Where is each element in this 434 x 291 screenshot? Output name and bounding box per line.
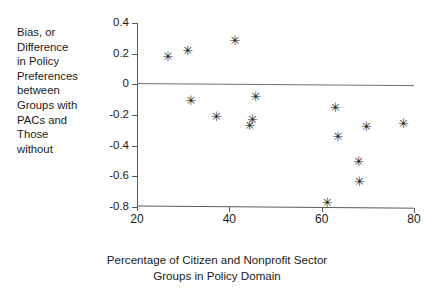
data-point-marker: ✳	[322, 198, 331, 207]
y-tick-label: 0.2	[113, 48, 129, 60]
data-point-marker: ✳	[186, 96, 195, 105]
scatter-plot-figure: Bias, or Difference in Policy Preference…	[0, 0, 434, 291]
y-tick-mark	[132, 146, 137, 147]
data-point-marker: ✳	[250, 92, 259, 101]
y-tick-mark	[132, 115, 137, 116]
y-tick-mark	[132, 176, 137, 177]
y-tick-label: -0.8	[109, 201, 129, 213]
zero-reference-line	[137, 81, 415, 89]
data-point-marker: ✳	[247, 115, 256, 124]
data-point-marker: ✳	[332, 132, 341, 141]
x-tick-mark	[229, 207, 230, 212]
data-point-marker: ✳	[353, 157, 362, 166]
x-tick-mark	[137, 206, 138, 211]
y-axis-title: Bias, or Difference in Policy Preference…	[17, 25, 109, 156]
y-tick-label: -0.4	[109, 140, 129, 152]
data-point-marker: ✳	[182, 46, 191, 55]
y-tick-label: -0.6	[109, 171, 129, 183]
y-tick-label: -0.2	[109, 109, 129, 121]
x-axis-spine	[137, 204, 415, 212]
x-tick-label: 80	[407, 213, 420, 225]
data-point-marker: ✳	[361, 122, 370, 131]
y-axis-spine	[137, 23, 138, 207]
plot-area: 0.40.20-0.2-0.4-0.6-0.8 20406080 ✳✳✳✳✳✳✳…	[137, 23, 414, 207]
y-tick-mark	[132, 84, 137, 85]
data-point-marker: ✳	[354, 177, 363, 186]
x-tick-label: 40	[223, 213, 236, 225]
y-tick-mark	[132, 54, 137, 55]
data-point-marker: ✳	[211, 112, 220, 121]
data-point-marker: ✳	[330, 103, 339, 112]
x-tick-label: 60	[315, 213, 328, 225]
x-tick-label: 20	[130, 213, 143, 225]
x-axis-title: Percentage of Citizen and Nonprofit Sect…	[0, 252, 434, 283]
y-tick-label: 0.4	[113, 17, 129, 29]
data-point-marker: ✳	[229, 36, 238, 45]
y-tick-mark	[132, 23, 137, 24]
data-point-marker: ✳	[398, 119, 407, 128]
data-point-marker: ✳	[163, 52, 172, 61]
y-tick-label: 0	[123, 79, 129, 91]
